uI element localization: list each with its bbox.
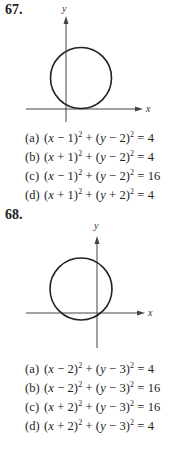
option-label: (c) xyxy=(25,169,44,184)
option-67d: (d)(x + 1)2 + (y + 2)2 = 4 xyxy=(25,188,154,203)
option-label: (d) xyxy=(25,188,44,203)
option-67c: (c)(x − 1)2 + (y − 2)2 = 16 xyxy=(25,169,160,184)
option-68b: (b)(x − 2)2 + (y − 3)2 = 16 xyxy=(25,381,160,396)
option-68c: (c)(x + 2)2 + (y − 3)2 = 16 xyxy=(25,400,160,415)
option-label: (b) xyxy=(25,150,44,165)
svg-text:x: x xyxy=(145,103,151,114)
option-label: (b) xyxy=(25,381,44,396)
option-68d: (d)(x + 2)2 + (y − 3)2 = 4 xyxy=(25,419,154,434)
option-67b: (b)(x + 1)2 + (y − 2)2 = 4 xyxy=(25,150,154,165)
option-67a: (a)(x − 1)2 + (y − 2)2 = 4 xyxy=(25,131,154,146)
option-label: (a) xyxy=(25,131,44,146)
option-label: (d) xyxy=(25,419,44,434)
option-label: (a) xyxy=(25,362,44,377)
option-label: (c) xyxy=(25,400,44,415)
option-68a: (a)(x − 2)2 + (y − 3)2 = 4 xyxy=(25,362,154,377)
svg-text:x: x xyxy=(147,307,153,318)
svg-text:y: y xyxy=(61,3,67,14)
graph-68: y x xyxy=(0,220,177,350)
graph-67: y x xyxy=(0,0,177,125)
svg-text:y: y xyxy=(93,220,99,231)
